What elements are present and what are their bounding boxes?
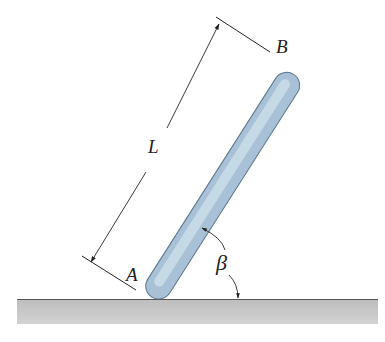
angle-arc-lower xyxy=(229,275,238,298)
rod-diagram: B A L β xyxy=(0,0,385,342)
dimension-line-lower xyxy=(91,172,146,262)
dimension-line-upper xyxy=(167,24,219,128)
label-angle: β xyxy=(215,250,227,275)
label-a: A xyxy=(124,264,138,285)
label-b: B xyxy=(276,36,288,57)
label-length: L xyxy=(147,136,159,157)
extension-line-top xyxy=(216,17,270,52)
ground xyxy=(17,299,378,324)
